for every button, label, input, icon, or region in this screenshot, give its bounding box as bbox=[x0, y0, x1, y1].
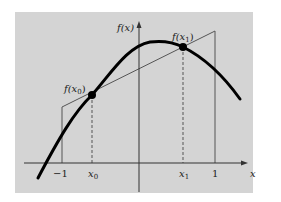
tick-label-neg-one: −1 bbox=[53, 168, 68, 179]
tick-label-one: 1 bbox=[212, 168, 218, 179]
point-f-x0 bbox=[88, 91, 96, 99]
gauss-quadrature-diagram: f(x) x f(x0) f(x1) −1 x0 x1 1 bbox=[0, 0, 281, 202]
x-axis-label: x bbox=[250, 168, 256, 179]
point-f-x1 bbox=[179, 43, 187, 51]
y-axis-label: f(x) bbox=[116, 22, 134, 33]
figure-panel bbox=[15, 12, 253, 193]
